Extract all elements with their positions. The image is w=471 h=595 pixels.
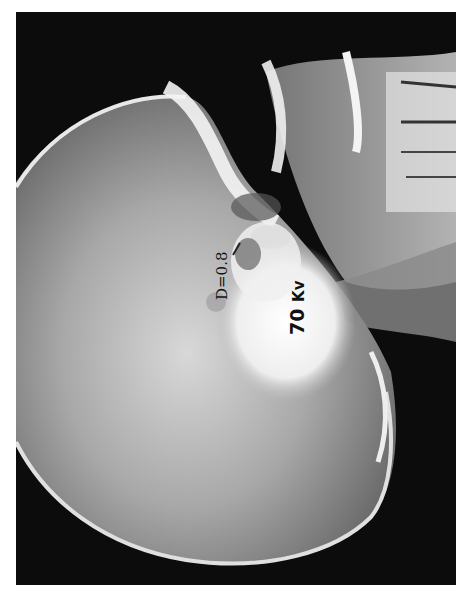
skull-xray-graphic <box>16 12 456 585</box>
density-label: D=0.8 <box>213 252 231 300</box>
kv-unit: Kv <box>290 281 308 302</box>
xray-film <box>16 12 456 585</box>
kilovoltage-label: 70 Kv <box>286 281 308 335</box>
kv-value: 70 <box>286 309 308 335</box>
